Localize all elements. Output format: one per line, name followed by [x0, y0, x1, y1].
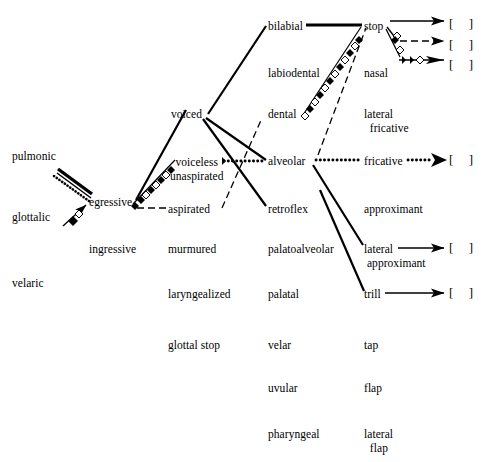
node-aspirated[interactable]: aspirated [168, 203, 210, 217]
node-alveolar[interactable]: alveolar [268, 155, 305, 169]
output-bracket-lateral-fricative[interactable]: [ ] [449, 152, 474, 168]
edge-glottalic-egressive [63, 205, 86, 226]
node-murmured[interactable]: murmured [168, 243, 216, 257]
edge-lateral-fricative-arrowhead [431, 153, 447, 167]
node-lateral-approximant[interactable]: lateral approximant [364, 243, 426, 270]
node-lateral-flap[interactable]: lateral flap [364, 428, 393, 455]
node-ingressive[interactable]: ingressive [89, 243, 136, 257]
node-pulmonic[interactable]: pulmonic [12, 150, 56, 164]
edge-pulmonic-egressive-solid [57, 169, 92, 198]
phonetics-feature-diagram: pulmonic glottalic velaric egressive ing… [0, 0, 487, 462]
edge-egressive-voiced [136, 110, 186, 200]
output-bracket-stop-3[interactable]: [ ] [449, 57, 474, 73]
node-nasal[interactable]: nasal [364, 67, 388, 81]
node-palatal[interactable]: palatal [268, 288, 299, 302]
node-egressive[interactable]: egressive [89, 196, 132, 210]
output-bracket-stop-1[interactable]: [ ] [449, 16, 474, 32]
output-bracket-lateral-approximant[interactable]: [ ] [449, 240, 474, 256]
edge-voiced-bilabial [208, 26, 266, 114]
node-approximant[interactable]: approximant [364, 203, 423, 217]
output-bracket-trill[interactable]: [ ] [449, 285, 474, 301]
edge-alveolar-trill [320, 190, 364, 291]
node-laryngealized[interactable]: laryngealized [168, 288, 231, 302]
node-voiced[interactable]: voiced [171, 108, 202, 122]
node-stop[interactable]: stop [364, 20, 383, 34]
node-flap[interactable]: flap [364, 382, 382, 396]
node-dental[interactable]: dental [268, 108, 296, 122]
node-fricative[interactable]: fricative [364, 155, 403, 169]
node-lateral-fricative[interactable]: lateral fricative [364, 108, 409, 135]
edge-layer [0, 0, 487, 462]
node-palatoalveolar[interactable]: palatoalveolar [268, 243, 334, 257]
node-glottal-stop[interactable]: glottal stop [168, 339, 220, 353]
node-tap[interactable]: tap [364, 339, 378, 353]
edge-aspirated-dental [222, 118, 262, 208]
node-glottalic[interactable]: glottalic [12, 211, 50, 225]
node-trill[interactable]: trill [364, 288, 381, 302]
node-pharyngeal[interactable]: pharyngeal [268, 428, 320, 442]
node-velaric[interactable]: velaric [12, 277, 44, 291]
node-labiodental[interactable]: labiodental [268, 67, 320, 81]
node-voiceless-unaspirated[interactable]: voiceless unaspirated [170, 156, 224, 183]
output-bracket-stop-2[interactable]: [ ] [449, 37, 474, 53]
node-retroflex[interactable]: retroflex [268, 203, 308, 217]
node-velar[interactable]: velar [268, 339, 291, 353]
node-bilabial[interactable]: bilabial [268, 20, 303, 34]
edge-voiced-alveolar [206, 118, 266, 160]
node-uvular[interactable]: uvular [268, 382, 298, 396]
